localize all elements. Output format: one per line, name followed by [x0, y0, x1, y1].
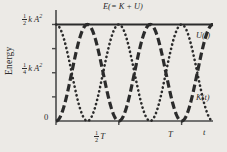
y-tick-label-half-kA2: 1 2 k A2	[22, 13, 42, 27]
y-tick-half-exponent: 2	[39, 13, 42, 19]
fraction-denominator: 2	[22, 19, 27, 26]
y-tick-label-zero: 0	[44, 113, 48, 122]
y-tick-quarter-exponent: 2	[39, 62, 42, 68]
y-axis-title: Energy	[5, 35, 15, 87]
fraction-one-half: 1 2	[94, 130, 99, 144]
x-axis-title: t	[203, 128, 205, 137]
fraction-denominator: 2	[94, 136, 99, 143]
fraction-one-half: 1 2	[22, 13, 27, 27]
fraction-one-quarter: 1 4	[22, 62, 27, 76]
total-energy-label: E(= K + U)	[103, 3, 143, 11]
energy-vs-time-figure: Energy 1 2 k A2 1 4 k A2 0 1 2 T T t E(=…	[0, 0, 227, 152]
y-tick-label-quarter-kA2: 1 4 k A2	[22, 62, 42, 76]
x-tick-label-half-T: 1 2 T	[94, 130, 105, 144]
y-tick-half-text: k A	[28, 14, 39, 24]
x-tick-label-T: T	[168, 130, 173, 139]
x-tick-half-T-text: T	[100, 131, 105, 141]
kinetic-energy-label: K(t)	[196, 94, 210, 102]
fraction-denominator: 4	[22, 68, 27, 75]
y-tick-quarter-text: k A	[28, 63, 39, 73]
potential-energy-label: U(t)	[196, 32, 210, 40]
